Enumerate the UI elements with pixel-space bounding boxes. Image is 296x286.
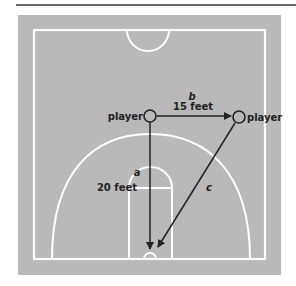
basketball-court-diagram: player player b 15 feet a 20 feet c (0, 0, 296, 286)
arrow-a-distance: 20 feet (97, 182, 137, 193)
player-right-label: player (247, 112, 282, 123)
player-left-label: player (108, 111, 143, 122)
arrow-a-letter: a (134, 167, 141, 178)
arrow-c-letter: c (206, 182, 212, 193)
arrow-b-distance: 15 feet (173, 101, 213, 112)
